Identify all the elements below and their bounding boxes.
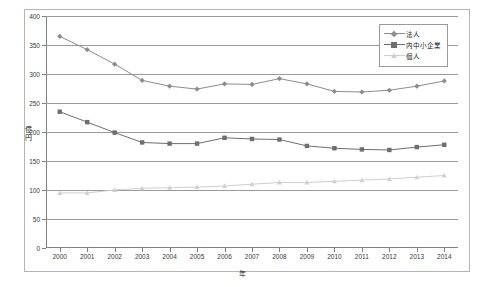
data-point <box>222 81 227 86</box>
x-axis-tick-label: 2001 <box>72 253 102 260</box>
x-axis-tick-label: 2012 <box>374 253 404 260</box>
data-point <box>85 47 90 52</box>
data-point <box>387 148 391 152</box>
x-axis-tick-label: 2010 <box>319 253 349 260</box>
x-axis-tick-label: 2002 <box>100 253 130 260</box>
legend-item-0[interactable]: 法人 <box>384 28 447 39</box>
data-point <box>140 140 144 144</box>
x-axis-tick-label: 2003 <box>127 253 157 260</box>
data-point <box>112 62 117 67</box>
x-axis-tick-label: 2007 <box>237 253 267 260</box>
x-axis-tick-mark <box>60 248 61 252</box>
x-axis-tick-mark <box>307 248 308 252</box>
data-point <box>195 141 199 145</box>
data-point <box>277 76 282 81</box>
data-point <box>304 81 309 86</box>
x-axis-tick-label: 2000 <box>45 253 75 260</box>
data-point <box>332 146 336 150</box>
chart-legend: 法人内中小企業個人 <box>379 24 448 67</box>
legend-item-2[interactable]: 個人 <box>384 50 447 61</box>
data-point <box>222 136 226 140</box>
x-axis-tick-mark <box>87 248 88 252</box>
data-point <box>85 120 89 124</box>
x-axis-title: 年 <box>0 268 484 278</box>
x-axis-tick-mark <box>334 248 335 252</box>
x-axis-tick-label: 2004 <box>155 253 185 260</box>
data-point <box>442 143 446 147</box>
y-axis-tick-label: 200 <box>14 129 40 136</box>
legend-item-label: 内中小企業 <box>406 40 441 50</box>
y-axis-tick-label: 150 <box>14 158 40 165</box>
data-point <box>360 147 364 151</box>
x-axis-tick-mark <box>389 248 390 252</box>
y-axis-tick-label: 50 <box>14 216 40 223</box>
x-axis-tick-label: 2008 <box>264 253 294 260</box>
data-point <box>249 82 254 87</box>
x-axis-tick-label: 2005 <box>182 253 212 260</box>
x-axis-tick-mark <box>115 248 116 252</box>
x-axis-tick-label: 2009 <box>292 253 322 260</box>
y-axis-tick-label: 250 <box>14 100 40 107</box>
data-point <box>387 88 392 93</box>
data-point <box>250 137 254 141</box>
y-axis-tick-mark <box>42 248 46 249</box>
data-point <box>140 78 145 83</box>
series-内中小企業 <box>58 110 447 153</box>
data-point <box>415 145 419 149</box>
legend-item-label: 個人 <box>406 51 420 61</box>
y-axis-tick-label: 100 <box>14 187 40 194</box>
x-axis-tick-mark <box>225 248 226 252</box>
legend-marker-icon <box>384 40 405 49</box>
x-axis-tick-mark <box>252 248 253 252</box>
data-point <box>359 89 364 94</box>
data-point <box>167 141 171 145</box>
legend-item-label: 法人 <box>406 29 420 39</box>
series-line <box>60 112 445 150</box>
y-axis-tick-label: 300 <box>14 71 40 78</box>
data-point <box>57 34 62 39</box>
data-point <box>414 84 419 89</box>
x-axis-tick-label: 2006 <box>210 253 240 260</box>
data-point <box>194 86 199 91</box>
x-axis-tick-mark <box>197 248 198 252</box>
cut-off-header-text <box>0 0 484 9</box>
data-point <box>277 137 281 141</box>
chart-figure: 億円 年 050100150200250300350400 2000200120… <box>0 0 484 287</box>
x-axis-tick-mark <box>417 248 418 252</box>
data-point <box>305 144 309 148</box>
x-axis-tick-label: 2011 <box>347 253 377 260</box>
data-point <box>112 130 116 134</box>
x-axis-tick-label: 2014 <box>429 253 459 260</box>
data-point <box>58 110 62 114</box>
x-axis-tick-mark <box>362 248 363 252</box>
y-axis-tick-label: 400 <box>14 13 40 20</box>
y-axis-tick-label: 350 <box>14 42 40 49</box>
legend-marker-icon <box>384 51 405 60</box>
data-point <box>332 89 337 94</box>
x-axis-tick-mark <box>279 248 280 252</box>
x-axis-tick-mark <box>444 248 445 252</box>
legend-item-1[interactable]: 内中小企業 <box>384 39 447 50</box>
data-point <box>167 84 172 89</box>
legend-marker-icon <box>384 29 405 38</box>
x-axis-tick-mark <box>142 248 143 252</box>
x-axis-tick-label: 2013 <box>402 253 432 260</box>
y-axis-tick-label: 0 <box>14 245 40 252</box>
data-point <box>442 78 447 83</box>
x-axis-tick-mark <box>170 248 171 252</box>
series-個人 <box>57 173 446 195</box>
